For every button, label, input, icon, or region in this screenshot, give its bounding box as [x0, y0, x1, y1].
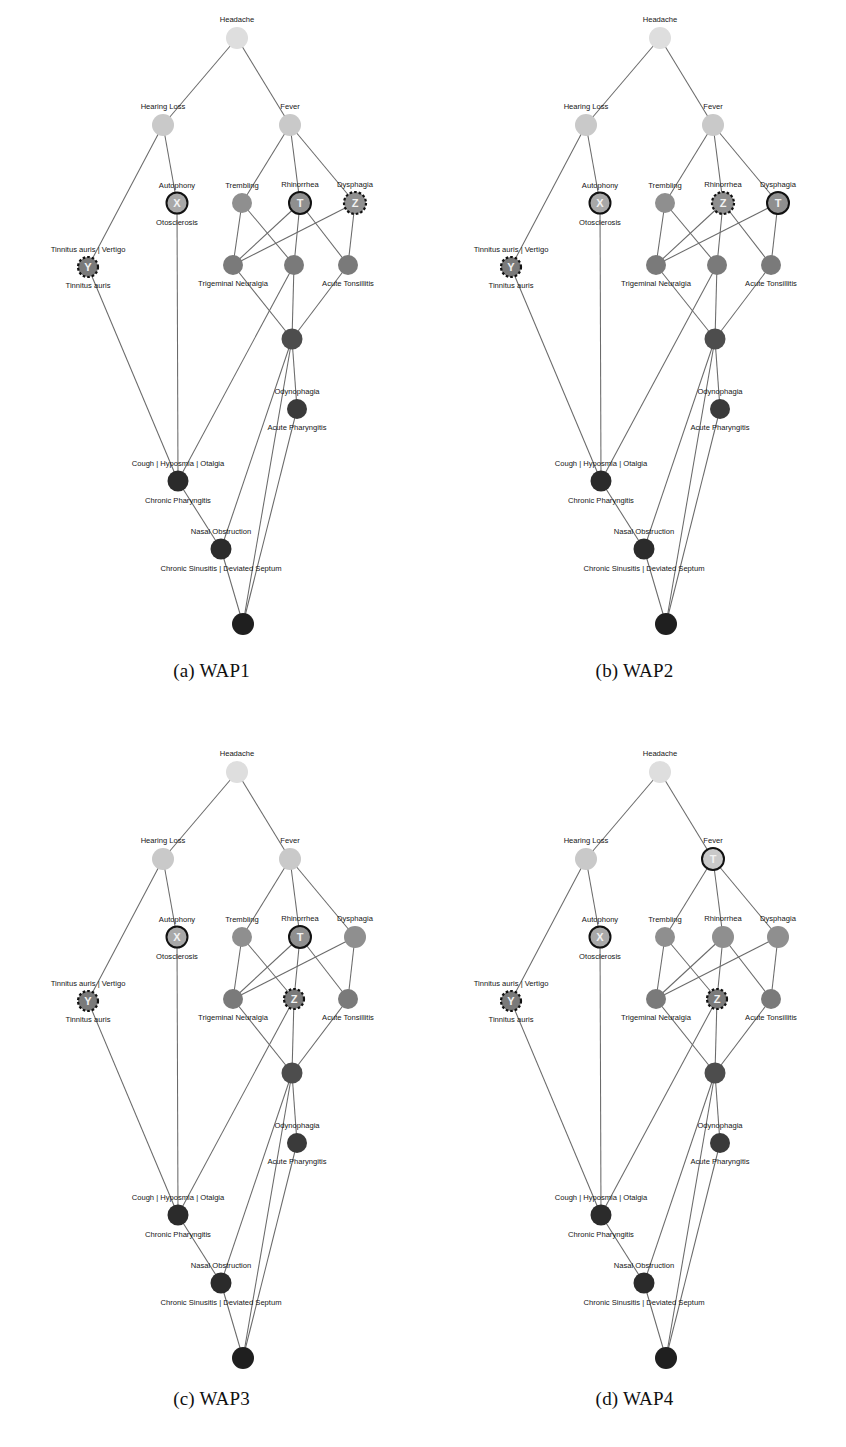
node-circle-headache[interactable]	[649, 761, 671, 783]
node-autophony[interactable]: XAutophonyOtosclerosis	[156, 915, 198, 961]
node-bottom[interactable]	[655, 1347, 677, 1369]
node-circle-bottom[interactable]	[232, 613, 254, 635]
node-circle-odynophagia[interactable]	[287, 1133, 307, 1153]
node-headache[interactable]: Headache	[220, 749, 255, 783]
node-circle-odynophagia[interactable]	[287, 399, 307, 419]
node-fever[interactable]: Fever	[279, 102, 301, 136]
node-circle-trigeminal[interactable]	[223, 989, 243, 1009]
node-trigeminal[interactable]: Trigeminal Neuralgia	[198, 255, 269, 288]
node-nasal[interactable]: Nasal ObstructionChronic Sinusitis | Dev…	[161, 527, 282, 573]
node-nasal[interactable]: Nasal ObstructionChronic Sinusitis | Dev…	[161, 1261, 282, 1307]
node-circle-headache[interactable]	[226, 761, 248, 783]
node-circle-headache[interactable]	[649, 27, 671, 49]
node-circle-odynophagia[interactable]	[710, 399, 730, 419]
node-trembling[interactable]: Trembling	[225, 181, 258, 213]
node-odynophagia[interactable]: OdynophagiaAcute Pharyngitis	[690, 1121, 749, 1166]
node-circle-acute_tonsillitis[interactable]	[338, 255, 358, 275]
node-circle-hub[interactable]	[282, 1063, 303, 1084]
node-trembling[interactable]: Trembling	[648, 181, 681, 213]
node-circle-hearing_loss[interactable]	[575, 848, 597, 870]
node-nasal[interactable]: Nasal ObstructionChronic Sinusitis | Dev…	[584, 1261, 705, 1307]
node-circle-fever[interactable]	[702, 114, 724, 136]
node-circle-cough[interactable]	[591, 1205, 612, 1226]
node-circle-trembling[interactable]	[232, 927, 252, 947]
node-autophony[interactable]: XAutophonyOtosclerosis	[579, 181, 621, 227]
node-headache[interactable]: Headache	[643, 15, 678, 49]
node-mid_center[interactable]	[284, 255, 304, 275]
node-circle-cough[interactable]	[168, 471, 189, 492]
node-circle-hub[interactable]	[705, 1063, 726, 1084]
node-circle-mid_center[interactable]	[284, 255, 304, 275]
node-tinnitus[interactable]: YTinnitus auris | VertigoTinnitus auris	[474, 979, 549, 1024]
node-circle-mid_center[interactable]	[707, 255, 727, 275]
node-circle-hub[interactable]	[705, 329, 726, 350]
node-circle-acute_tonsillitis[interactable]	[761, 255, 781, 275]
node-trembling[interactable]: Trembling	[225, 915, 258, 947]
node-circle-nasal[interactable]	[634, 539, 655, 560]
node-circle-hub[interactable]	[282, 329, 303, 350]
node-hearing_loss[interactable]: Hearing Loss	[141, 102, 186, 136]
node-circle-trembling[interactable]	[655, 927, 675, 947]
node-bottom[interactable]	[232, 613, 254, 635]
node-circle-hearing_loss[interactable]	[152, 848, 174, 870]
node-circle-rhinorrhea[interactable]	[712, 926, 734, 948]
node-tinnitus[interactable]: YTinnitus auris | VertigoTinnitus auris	[51, 979, 126, 1024]
node-mid_center[interactable]: Z	[284, 989, 304, 1009]
node-circle-trigeminal[interactable]	[646, 255, 666, 275]
node-hearing_loss[interactable]: Hearing Loss	[564, 102, 609, 136]
node-odynophagia[interactable]: OdynophagiaAcute Pharyngitis	[267, 387, 326, 432]
node-trembling[interactable]: Trembling	[648, 915, 681, 947]
node-circle-cough[interactable]	[168, 1205, 189, 1226]
node-circle-fever[interactable]	[279, 848, 301, 870]
node-trigeminal[interactable]: Trigeminal Neuralgia	[198, 989, 269, 1022]
node-mid_center[interactable]: Z	[707, 989, 727, 1009]
node-odynophagia[interactable]: OdynophagiaAcute Pharyngitis	[690, 387, 749, 432]
node-circle-acute_tonsillitis[interactable]	[338, 989, 358, 1009]
node-circle-dysphagia[interactable]	[767, 926, 789, 948]
node-circle-cough[interactable]	[591, 471, 612, 492]
node-circle-hearing_loss[interactable]	[152, 114, 174, 136]
node-tinnitus[interactable]: YTinnitus auris | VertigoTinnitus auris	[474, 245, 549, 290]
node-acute_tonsillitis[interactable]: Acute Tonsillitis	[745, 989, 797, 1022]
node-circle-bottom[interactable]	[655, 613, 677, 635]
node-headache[interactable]: Headache	[643, 749, 678, 783]
node-circle-bottom[interactable]	[232, 1347, 254, 1369]
node-nasal[interactable]: Nasal ObstructionChronic Sinusitis | Dev…	[584, 527, 705, 573]
node-rhinorrhea[interactable]: TRhinorrhea	[281, 180, 319, 214]
node-hub[interactable]	[282, 329, 303, 350]
node-hub[interactable]	[705, 329, 726, 350]
node-acute_tonsillitis[interactable]: Acute Tonsillitis	[745, 255, 797, 288]
node-circle-nasal[interactable]	[211, 1273, 232, 1294]
node-autophony[interactable]: XAutophonyOtosclerosis	[579, 915, 621, 961]
node-fever[interactable]: TFever	[702, 836, 724, 870]
node-circle-nasal[interactable]	[211, 539, 232, 560]
node-cough[interactable]: Cough | Hyposmia | OtalgiaChronic Pharyn…	[555, 459, 648, 505]
node-hearing_loss[interactable]: Hearing Loss	[564, 836, 609, 870]
node-circle-odynophagia[interactable]	[710, 1133, 730, 1153]
node-hub[interactable]	[282, 1063, 303, 1084]
node-circle-trigeminal[interactable]	[646, 989, 666, 1009]
node-acute_tonsillitis[interactable]: Acute Tonsillitis	[322, 989, 374, 1022]
node-rhinorrhea[interactable]: ZRhinorrhea	[704, 180, 742, 214]
node-rhinorrhea[interactable]: Rhinorrhea	[704, 914, 742, 948]
node-circle-fever[interactable]	[279, 114, 301, 136]
node-cough[interactable]: Cough | Hyposmia | OtalgiaChronic Pharyn…	[555, 1193, 648, 1239]
node-circle-dysphagia[interactable]	[344, 926, 366, 948]
node-cough[interactable]: Cough | Hyposmia | OtalgiaChronic Pharyn…	[132, 459, 225, 505]
node-trigeminal[interactable]: Trigeminal Neuralgia	[621, 255, 692, 288]
node-fever[interactable]: Fever	[279, 836, 301, 870]
node-fever[interactable]: Fever	[702, 102, 724, 136]
node-circle-hearing_loss[interactable]	[575, 114, 597, 136]
node-odynophagia[interactable]: OdynophagiaAcute Pharyngitis	[267, 1121, 326, 1166]
node-trigeminal[interactable]: Trigeminal Neuralgia	[621, 989, 692, 1022]
node-circle-trembling[interactable]	[655, 193, 675, 213]
node-autophony[interactable]: XAutophonyOtosclerosis	[156, 181, 198, 227]
node-circle-trembling[interactable]	[232, 193, 252, 213]
node-circle-acute_tonsillitis[interactable]	[761, 989, 781, 1009]
node-hub[interactable]	[705, 1063, 726, 1084]
node-bottom[interactable]	[655, 613, 677, 635]
node-headache[interactable]: Headache	[220, 15, 255, 49]
node-hearing_loss[interactable]: Hearing Loss	[141, 836, 186, 870]
node-acute_tonsillitis[interactable]: Acute Tonsillitis	[322, 255, 374, 288]
node-tinnitus[interactable]: YTinnitus auris | VertigoTinnitus auris	[51, 245, 126, 290]
